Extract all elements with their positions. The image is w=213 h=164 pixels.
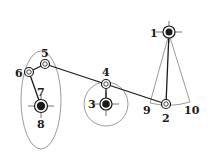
label-8: 8 [37, 118, 45, 131]
label-9: 9 [143, 104, 151, 117]
label-6: 6 [15, 67, 23, 80]
joint-6 [25, 68, 34, 77]
joint-4 [102, 80, 111, 89]
label-5: 5 [41, 47, 49, 60]
fixed-pivot-3 [93, 92, 119, 116]
fixed-pivot-1 [156, 21, 182, 43]
linkage-diagram: 1 2 3 4 5 6 7 8 9 10 [0, 0, 213, 164]
label-2: 2 [162, 112, 170, 125]
label-1: 1 [150, 27, 158, 40]
label-4: 4 [102, 66, 110, 79]
joint-5 [41, 60, 50, 69]
joint-2 [162, 100, 171, 109]
label-7: 7 [37, 86, 45, 99]
label-3: 3 [88, 98, 96, 111]
label-10: 10 [184, 104, 200, 117]
swing-sector [150, 34, 190, 105]
